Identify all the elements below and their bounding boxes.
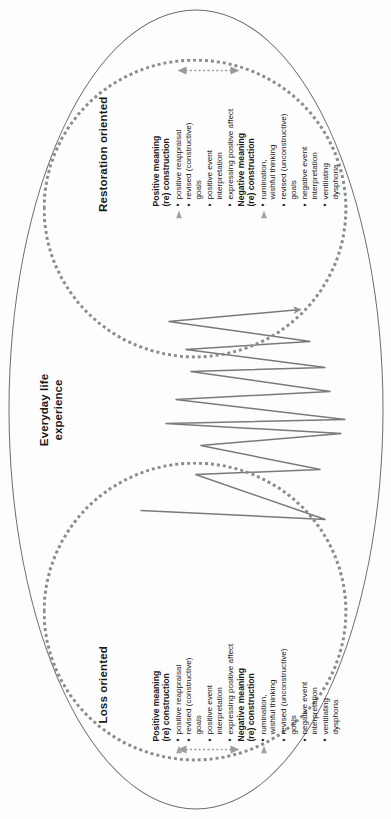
loss-oriented-label: Loss oriented xyxy=(96,646,108,723)
restoration-negative-heading: Negative meaning (re) construction xyxy=(235,78,256,206)
everyday-life-label: Everyday life experience xyxy=(36,373,65,445)
loss-negative-list: rumination, wishful thinking revised (un… xyxy=(258,613,340,741)
list-item: rumination, wishful thinking xyxy=(258,613,278,741)
list-item: positive reappraisal xyxy=(173,613,183,741)
restoration-negative-meaning-block: Negative meaning (re) construction rumin… xyxy=(235,78,341,206)
arrow-right-icon xyxy=(259,207,268,218)
restoration-positive-meaning-block: Positive meaning (re) construction posit… xyxy=(150,78,236,206)
arrow-right-icon xyxy=(174,207,183,218)
loss-positive-meaning-block: Positive meaning (re) construction posit… xyxy=(150,613,236,741)
list-item: expressing positive affect xyxy=(225,613,235,741)
list-item: revised (unconstructive) goals xyxy=(278,78,298,206)
loss-positive-heading: Positive meaning (re) construction xyxy=(150,613,171,741)
list-item: revised (unconstructive) goals xyxy=(278,613,298,741)
arrow-right-icon xyxy=(259,742,268,753)
restoration-oriented-label: Restoration oriented xyxy=(96,96,108,211)
restoration-negative-list: rumination, wishful thinking revised (un… xyxy=(258,78,340,206)
restoration-positive-list: positive reappraisal revised (constructi… xyxy=(173,78,235,206)
list-item: revised (constructive) goals xyxy=(183,78,203,206)
list-item: ventilating dysphoria xyxy=(320,78,340,206)
loss-negative-heading: Negative meaning (re) construction xyxy=(235,613,256,741)
list-item: negative event interpretation xyxy=(299,613,319,741)
loss-positive-list: positive reappraisal revised (constructi… xyxy=(173,613,235,741)
list-item: positive event interpretation xyxy=(204,613,224,741)
list-item: rumination, wishful thinking xyxy=(258,78,278,206)
list-item: expressing positive affect xyxy=(225,78,235,206)
list-item: positive event interpretation xyxy=(204,78,224,206)
dual-process-diagram: Everyday life experience Loss oriented P… xyxy=(0,0,391,819)
loss-negative-meaning-block: Negative meaning (re) construction rumin… xyxy=(235,613,341,741)
list-item: revised (constructive) goals xyxy=(183,613,203,741)
restoration-bidirectional-arrow xyxy=(176,64,240,76)
list-item: positive reappraisal xyxy=(173,78,183,206)
list-item: ventilating dysphoria xyxy=(320,613,340,741)
list-item: negative event interpretation xyxy=(299,78,319,206)
loss-bidirectional-arrow xyxy=(176,743,240,755)
restoration-positive-heading: Positive meaning (re) construction xyxy=(150,78,171,206)
arrow-right-icon xyxy=(174,742,183,753)
